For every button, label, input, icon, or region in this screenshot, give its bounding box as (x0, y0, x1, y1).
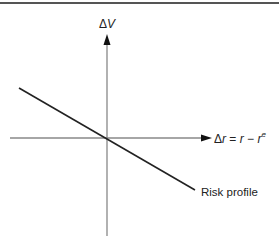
risk-profile-diagram (0, 0, 279, 245)
y-axis-label: ΔV (99, 18, 115, 30)
x-axis-arrow-icon (201, 135, 212, 142)
risk-profile-label: Risk profile (201, 187, 258, 199)
x-axis-label: Δr = r − re (214, 132, 266, 145)
y-axis-arrow-icon (104, 34, 111, 45)
